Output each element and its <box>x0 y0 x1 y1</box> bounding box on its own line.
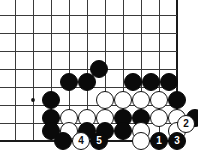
move-number-label: 5 <box>96 135 102 145</box>
move-number-label: 4 <box>78 135 84 145</box>
star-point <box>31 98 35 102</box>
go-diagram: 24513 <box>0 0 198 159</box>
move-number-label: 3 <box>174 135 180 145</box>
move-number-label: 2 <box>183 118 189 128</box>
move-number-label: 1 <box>156 135 162 145</box>
